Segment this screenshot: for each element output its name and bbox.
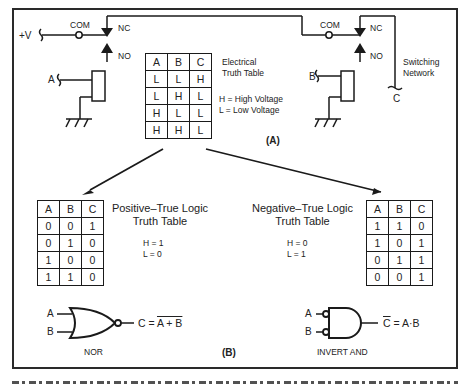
invert-and-gate-label: INVERT AND <box>317 347 368 358</box>
table-header-row: A B C <box>38 201 104 218</box>
nor-gate-label: NOR <box>84 347 103 358</box>
invert-and-gate-icon <box>329 308 361 338</box>
nor-input-a-label: A <box>47 308 54 319</box>
positive-table-title: Positive–True Logic Truth Table <box>105 202 215 228</box>
invert-and-input-b-label: B <box>305 326 312 337</box>
arrowhead-left-icon <box>82 190 94 195</box>
relay2-nc-label: NC <box>370 23 382 34</box>
output-c-label: C <box>393 93 400 104</box>
coil-b-label: B <box>309 71 316 82</box>
relay1-com-label: COM <box>70 20 90 31</box>
table-row: 0 1 0 <box>38 235 104 252</box>
relay-a-coil-icon <box>92 71 105 101</box>
negative-truth-table: A B C 1 1 0 1 0 1 0 1 1 0 0 1 <box>366 200 433 286</box>
nor-expression: C = A + B <box>138 317 182 329</box>
relay2-com-label: COM <box>320 20 340 31</box>
positive-table-legend: H = 1 L = 0 <box>143 238 164 260</box>
relay1-nc-label: NC <box>118 23 130 34</box>
electrical-truth-table: A B C L L H L H L H L L H H L <box>145 53 212 139</box>
invert-and-input-a-label: A <box>305 308 312 319</box>
figure-canvas: +V COM NC NO A COM NC NO B C Switching N… <box>0 0 466 384</box>
relay2-no-contact-icon <box>354 43 366 53</box>
electrical-table-legend: H = High Voltage L = Low Voltage <box>219 94 283 116</box>
relay1-no-label: NO <box>118 51 131 62</box>
table-row: 1 0 0 <box>38 252 104 269</box>
table-row: 0 0 1 <box>367 269 433 286</box>
table-row: L H L <box>146 88 212 105</box>
negative-table-title: Negative–True Logic Truth Table <box>245 202 360 228</box>
table-row: 1 1 0 <box>367 218 433 235</box>
com2-contact-icon <box>326 32 332 38</box>
table-row: H L L <box>146 105 212 122</box>
figure-caption-clipped <box>12 374 458 384</box>
positive-truth-table: A B C 0 0 1 0 1 0 1 0 0 1 1 0 <box>37 200 104 286</box>
nor-gate-icon <box>70 308 115 338</box>
table-row: 1 1 0 <box>38 269 104 286</box>
table-row: 1 0 1 <box>367 235 433 252</box>
table-row: 0 1 1 <box>367 252 433 269</box>
electrical-table-title: Electrical Truth Table <box>222 57 264 79</box>
table-header-row: A B C <box>367 201 433 218</box>
table-row: 0 0 1 <box>38 218 104 235</box>
coil-a-label: A <box>48 74 55 85</box>
part-b-label: (B) <box>222 347 236 358</box>
table-header-row: A B C <box>146 54 212 71</box>
nor-bubble-icon <box>115 320 121 326</box>
switching-network-label: Switching Network <box>403 57 439 79</box>
relay2-no-label: NO <box>370 51 383 62</box>
negative-table-legend: H = 0 L = 1 <box>287 238 308 260</box>
part-a-label: (A) <box>266 135 280 146</box>
nor-input-b-label: B <box>47 326 54 337</box>
table-row: L L H <box>146 71 212 88</box>
supply-label: +V <box>19 30 32 41</box>
com1-contact-icon <box>76 32 82 38</box>
relay1-no-contact-icon <box>101 43 113 53</box>
invert-and-expression: C = A·B <box>383 317 419 329</box>
relay-b-coil-icon <box>341 71 354 101</box>
arrowhead-right-icon <box>372 188 381 195</box>
table-row: H H L <box>146 122 212 139</box>
